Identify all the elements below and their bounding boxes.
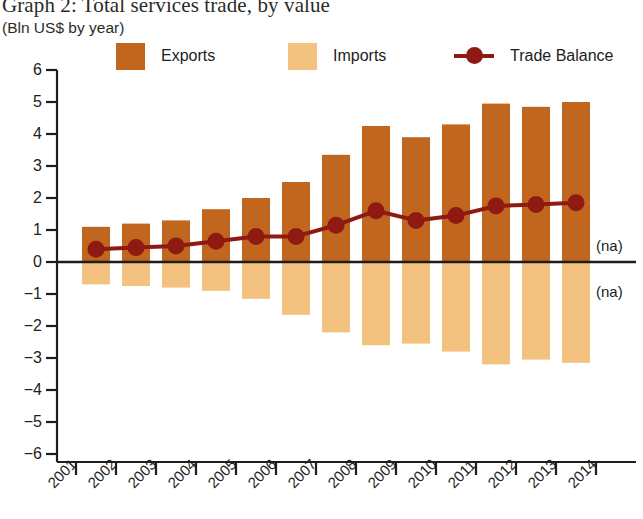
trade-balance-point[interactable] [248,228,265,245]
bar-imports[interactable] [322,262,350,332]
na-annotation-below-axis: (na) [596,283,623,300]
y-axis-tick-label: −2 [8,317,42,335]
trade-balance-point[interactable] [128,239,145,256]
trade-balance-point[interactable] [88,241,105,258]
bar-imports[interactable] [162,262,190,288]
chart-plot-area: 6543210−1−2−3−4−5−6 20012002200320042005… [0,0,643,519]
trade-balance-point[interactable] [528,196,545,213]
trade-balance-point[interactable] [368,202,385,219]
bar-exports[interactable] [282,182,310,262]
bar-imports[interactable] [282,262,310,315]
chart-svg [0,0,643,519]
y-axis-tick-label: −5 [8,413,42,431]
trade-balance-point[interactable] [208,233,225,250]
bar-imports[interactable] [82,262,110,284]
bar-imports[interactable] [482,262,510,364]
y-axis-tick-label: 5 [8,93,42,111]
y-axis-tick-label: 1 [8,221,42,239]
bar-exports[interactable] [562,102,590,262]
bar-exports[interactable] [362,126,390,262]
trade-balance-point[interactable] [488,198,505,215]
bar-imports[interactable] [202,262,230,291]
trade-balance-point[interactable] [288,228,305,245]
trade-balance-point[interactable] [168,238,185,255]
na-annotation-above-axis: (na) [596,237,623,254]
bar-imports[interactable] [362,262,390,345]
bar-imports[interactable] [122,262,150,286]
trade-balance-point[interactable] [568,194,585,211]
bar-exports[interactable] [322,155,350,262]
bar-exports[interactable] [402,137,430,262]
bar-imports[interactable] [522,262,550,360]
trade-balance-point[interactable] [328,217,345,234]
exports-bar-group [82,102,590,262]
bar-exports[interactable] [482,104,510,262]
y-axis-tick-label: 3 [8,157,42,175]
trade-balance-point[interactable] [408,212,425,229]
y-axis-tick-label: 2 [8,189,42,207]
bar-imports[interactable] [402,262,430,344]
bar-exports[interactable] [442,124,470,262]
y-axis-tick-label: −1 [8,285,42,303]
y-axis-tick-label: −4 [8,381,42,399]
y-axis-tick-label: −6 [8,445,42,463]
y-axis-tick-label: 6 [8,61,42,79]
y-axis-tick-label: 0 [8,253,42,271]
y-axis-tick-label: 4 [8,125,42,143]
bar-imports[interactable] [442,262,470,352]
imports-bar-group [82,262,590,364]
bar-exports[interactable] [522,107,550,262]
trade-balance-point[interactable] [448,207,465,224]
bar-imports[interactable] [562,262,590,363]
y-axis-tick-label: −3 [8,349,42,367]
bar-imports[interactable] [242,262,270,299]
